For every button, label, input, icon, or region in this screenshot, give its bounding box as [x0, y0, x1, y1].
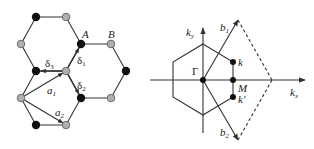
k-point — [230, 59, 236, 65]
label-a2: a2 — [55, 106, 65, 120]
atom-b — [62, 13, 70, 21]
atom-b — [17, 40, 25, 48]
atom-a — [77, 94, 85, 102]
dashed-line-upper — [238, 20, 272, 80]
graphene-figure: A B δ3 δ1 δ2 a1 a2 ky kx Γ k M k′ b1 b2 — [0, 0, 314, 149]
gamma-point — [200, 77, 206, 83]
label-kx: kx — [290, 86, 299, 100]
label-delta2: δ2 — [77, 79, 86, 93]
atom-b — [17, 94, 25, 102]
label-delta3: δ3 — [45, 57, 54, 71]
atom-a — [32, 121, 40, 129]
atom-a — [32, 67, 40, 75]
atom-b — [62, 121, 70, 129]
atom-b — [62, 67, 70, 75]
label-k-prime: k′ — [238, 93, 246, 105]
label-A: A — [81, 28, 89, 40]
label-k: k — [238, 56, 244, 68]
atom-a — [77, 40, 85, 48]
atom-a — [32, 13, 40, 21]
label-delta1: δ1 — [77, 54, 86, 68]
hexagon-right — [66, 44, 126, 98]
label-b1: b1 — [220, 21, 229, 35]
atom-a — [122, 67, 130, 75]
label-gamma: Γ — [192, 65, 198, 77]
atom-b — [107, 94, 115, 102]
M-point — [230, 77, 236, 83]
label-B: B — [108, 28, 115, 40]
k-prime-point — [230, 94, 236, 100]
label-b2: b2 — [220, 126, 230, 140]
label-a1: a1 — [47, 84, 56, 98]
label-ky: ky — [186, 26, 195, 40]
atom-b — [107, 40, 115, 48]
a1-vector — [21, 73, 63, 98]
brillouin-zone — [150, 20, 305, 140]
hexagon-bottom — [21, 71, 81, 125]
